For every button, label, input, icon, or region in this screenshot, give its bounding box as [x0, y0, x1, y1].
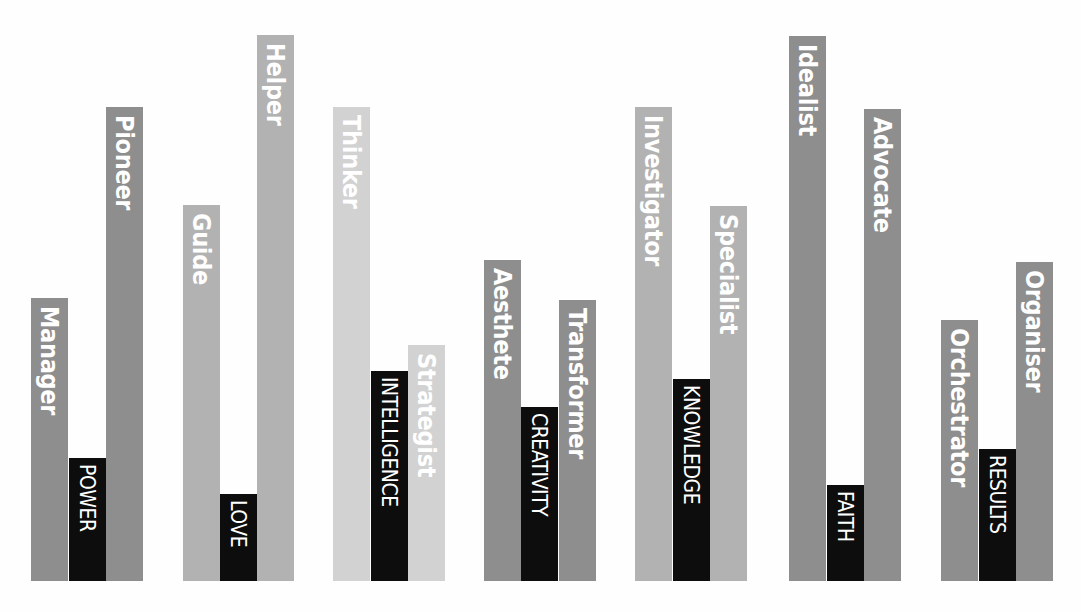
- bar-label-results: RESULTS: [978, 455, 1015, 534]
- bar-label-advocate: Advocate: [864, 117, 901, 233]
- bar-love: LOVE: [220, 494, 257, 581]
- bar-thinker: Thinker: [333, 107, 370, 581]
- bar-label-helper: Helper: [257, 43, 294, 125]
- bar-investigator: Investigator: [635, 107, 672, 581]
- bar-manager: Manager: [31, 298, 68, 581]
- bar-transformer: Transformer: [559, 300, 596, 581]
- bar-advocate: Advocate: [864, 109, 901, 581]
- bar-label-strategist: Strategist: [408, 353, 445, 477]
- bar-pioneer: Pioneer: [106, 107, 143, 581]
- bar-label-aesthete: Aesthete: [484, 268, 521, 380]
- bar-label-organiser: Organiser: [1016, 270, 1053, 392]
- bar-label-guide: Guide: [183, 213, 220, 285]
- bar-label-transformer: Transformer: [559, 308, 596, 459]
- bar-label-love: LOVE: [219, 500, 256, 547]
- bar-label-knowledge: KNOWLEDGE: [672, 385, 709, 504]
- bar-label-idealist: Idealist: [789, 44, 826, 136]
- bar-specialist: Specialist: [710, 206, 747, 581]
- bar-guide: Guide: [183, 205, 220, 581]
- bar-power: POWER: [69, 458, 106, 581]
- chart-area: ManagerPOWERPioneerGuideLOVEHelperThinke…: [0, 0, 1081, 612]
- bar-intelligence: INTELLIGENCE: [371, 371, 408, 581]
- bar-label-creativity: CREATIVITY: [520, 413, 557, 516]
- bar-knowledge: KNOWLEDGE: [673, 379, 710, 581]
- bar-label-power: POWER: [68, 464, 105, 532]
- bar-results: RESULTS: [979, 449, 1016, 581]
- bar-aesthete: Aesthete: [484, 260, 521, 581]
- bar-label-specialist: Specialist: [710, 214, 747, 334]
- bar-helper: Helper: [257, 35, 294, 581]
- bar-label-manager: Manager: [31, 306, 68, 415]
- bar-label-thinker: Thinker: [333, 115, 370, 209]
- bar-idealist: Idealist: [789, 36, 826, 581]
- bar-label-faith: FAITH: [826, 491, 863, 542]
- bar-label-orchestrator: Orchestrator: [941, 328, 978, 487]
- bar-label-intelligence: INTELLIGENCE: [370, 377, 407, 507]
- bar-creativity: CREATIVITY: [521, 407, 558, 581]
- bar-label-investigator: Investigator: [635, 115, 672, 266]
- bar-faith: FAITH: [827, 485, 864, 581]
- bar-orchestrator: Orchestrator: [941, 320, 978, 581]
- bar-organiser: Organiser: [1016, 262, 1053, 581]
- bar-label-pioneer: Pioneer: [106, 115, 143, 210]
- bar-strategist: Strategist: [408, 345, 445, 581]
